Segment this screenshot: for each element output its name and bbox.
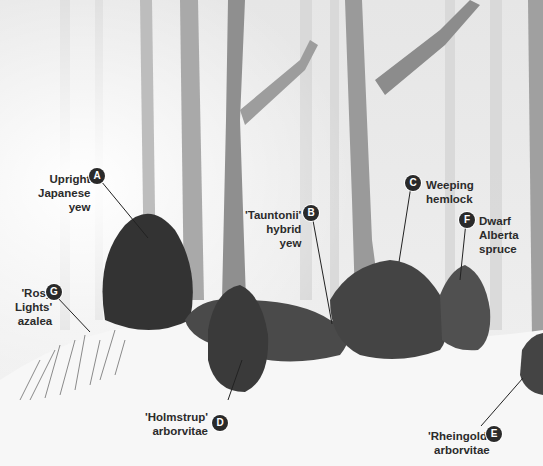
callout-c-badge: C — [405, 175, 421, 191]
callout-a-label: Upright Japanese yew — [38, 172, 90, 214]
callout-a-badge: A — [89, 168, 105, 184]
callout-a-line-2: Japanese — [38, 186, 90, 200]
callout-d-line-1: 'Holmstrup' — [145, 410, 208, 424]
callout-d-line-2: arborvitae — [145, 424, 208, 438]
callout-b-line-1: 'Tauntonii' — [245, 208, 301, 222]
callout-b-badge: B — [303, 205, 319, 221]
callout-c-line-1: Weeping — [426, 178, 474, 192]
callout-b-line-2: hybrid — [245, 222, 301, 236]
callout-d-label: 'Holmstrup' arborvitae — [145, 410, 208, 438]
callout-a-line-3: yew — [38, 200, 90, 214]
callout-g-line-2: Lights' — [15, 300, 52, 314]
callout-a-line-1: Upright — [38, 172, 90, 186]
callout-e-line-2: arborvitae — [428, 443, 490, 457]
callout-d-badge: D — [212, 415, 228, 431]
callout-f-label: Dwarf Alberta spruce — [479, 214, 519, 256]
callout-c-line-2: hemlock — [426, 192, 474, 206]
callout-f-line-2: Alberta — [479, 228, 519, 242]
callout-f-badge: F — [459, 212, 475, 228]
callout-b-label: 'Tauntonii' hybrid yew — [245, 208, 301, 250]
callout-b-line-3: yew — [245, 236, 301, 250]
callout-f-line-1: Dwarf — [479, 214, 519, 228]
garden-illustration: Upright Japanese yew A 'Tauntonii' hybri… — [0, 0, 543, 466]
callout-f-line-3: spruce — [479, 242, 519, 256]
callout-g-badge: G — [46, 284, 62, 300]
callout-e-label: 'Rheingold' arborvitae — [428, 429, 490, 457]
callout-g-line-3: azalea — [15, 314, 52, 328]
callout-e-line-1: 'Rheingold' — [428, 429, 490, 443]
callout-e-badge: E — [486, 426, 502, 442]
callout-c-label: Weeping hemlock — [426, 178, 474, 206]
